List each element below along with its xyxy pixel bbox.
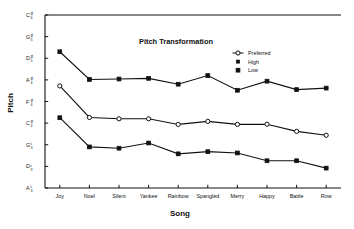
x-tick-label: Rainbow bbox=[168, 193, 189, 199]
data-point bbox=[147, 117, 151, 121]
data-point bbox=[265, 159, 269, 163]
data-point bbox=[265, 79, 269, 83]
legend-item-preferred: Preferred bbox=[233, 50, 271, 56]
svg-text:C: C bbox=[26, 12, 30, 18]
data-point bbox=[176, 122, 180, 126]
x-tick-label: Noel bbox=[84, 193, 95, 199]
svg-text:4: 4 bbox=[30, 103, 32, 107]
x-tick-label: Merry bbox=[231, 193, 245, 199]
data-point bbox=[235, 122, 239, 126]
legend-label: Preferred bbox=[248, 50, 270, 56]
svg-text:6: 6 bbox=[30, 16, 32, 20]
svg-text:D: D bbox=[26, 163, 30, 169]
x-axis-title: Song bbox=[170, 209, 190, 218]
data-point bbox=[324, 166, 328, 170]
data-point bbox=[58, 84, 62, 88]
svg-text:4: 4 bbox=[30, 124, 32, 128]
data-point bbox=[295, 159, 299, 163]
svg-text:F: F bbox=[26, 99, 29, 105]
legend-label: Low bbox=[248, 67, 258, 73]
svg-text:3: 3 bbox=[30, 189, 32, 193]
svg-text:A: A bbox=[26, 77, 30, 83]
x-tick-label: Silent bbox=[112, 193, 126, 199]
y-axis-title: Pitch bbox=[6, 93, 15, 113]
svg-text:5: 5 bbox=[30, 59, 32, 63]
data-point bbox=[206, 119, 210, 123]
data-point bbox=[58, 50, 62, 54]
data-point bbox=[88, 145, 92, 149]
svg-text:C: C bbox=[26, 120, 30, 126]
svg-text:D: D bbox=[26, 55, 30, 61]
x-tick-label: Happy bbox=[259, 193, 275, 199]
data-point bbox=[87, 115, 91, 119]
data-point bbox=[206, 74, 210, 78]
data-point bbox=[206, 150, 210, 154]
svg-text:5: 5 bbox=[30, 38, 32, 42]
svg-text:4: 4 bbox=[30, 81, 32, 85]
data-point bbox=[88, 78, 92, 82]
svg-text:3: 3 bbox=[30, 168, 32, 172]
data-point bbox=[236, 88, 240, 92]
legend-item-low: Low bbox=[236, 67, 258, 73]
data-point bbox=[295, 88, 299, 92]
data-point bbox=[176, 152, 180, 156]
data-point bbox=[58, 116, 62, 120]
svg-text:3: 3 bbox=[30, 146, 32, 150]
data-point bbox=[147, 141, 151, 145]
data-point bbox=[117, 77, 121, 81]
legend-label: High bbox=[248, 59, 259, 65]
data-point bbox=[324, 86, 328, 90]
x-tick-label: Spangled bbox=[196, 193, 219, 199]
data-point bbox=[176, 82, 180, 86]
data-point bbox=[236, 151, 240, 155]
y-axis-tick-labels: A♭3D♭3G♭3C♯4F♯4A♯4D♯5G♯5C♯6 bbox=[26, 10, 33, 193]
pitch-transformation-chart: A♭3D♭3G♭3C♯4F♯4A♯4D♯5G♯5C♯6 JoyNoelSilen… bbox=[0, 0, 354, 229]
data-point bbox=[295, 129, 299, 133]
x-tick-label: Battle bbox=[290, 193, 304, 199]
data-point bbox=[265, 122, 269, 126]
chart-title: Pitch Transformation bbox=[139, 37, 213, 46]
data-point bbox=[324, 133, 328, 137]
x-tick-label: Row bbox=[321, 193, 332, 199]
data-point bbox=[117, 117, 121, 121]
x-tick-label: Joy bbox=[56, 193, 65, 199]
data-point bbox=[117, 146, 121, 150]
chart-container: A♭3D♭3G♭3C♯4F♯4A♯4D♯5G♯5C♯6 JoyNoelSilen… bbox=[0, 0, 354, 229]
data-point bbox=[147, 76, 151, 80]
svg-text:A: A bbox=[26, 185, 30, 191]
x-tick-label: Yankee bbox=[140, 193, 158, 199]
